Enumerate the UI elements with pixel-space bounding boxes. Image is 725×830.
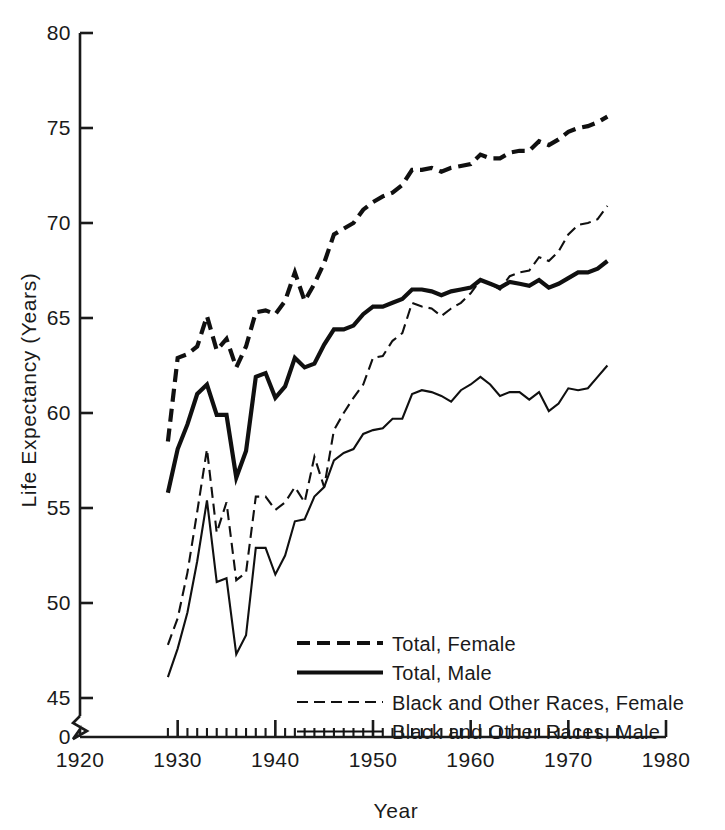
legend-label-3: Black and Other Races, Male — [392, 721, 660, 743]
x-axis-title: Year — [374, 799, 419, 822]
legend-label-0: Total, Female — [392, 633, 516, 655]
y-tick-label-55: 55 — [47, 496, 71, 519]
legend-label-2: Black and Other Races, Female — [392, 692, 684, 714]
x-tick-label-1930: 1930 — [153, 748, 202, 771]
x-tick-label-1980: 1980 — [642, 748, 691, 771]
legend-label-1: Total, Male — [392, 662, 492, 684]
y-tick-label-45: 45 — [47, 686, 71, 709]
y-tick-marks — [80, 33, 93, 698]
series-line-0 — [168, 117, 608, 442]
y-tick-label-zero: 0 — [59, 725, 71, 748]
data-series-group — [168, 117, 608, 678]
x-tick-label-1960: 1960 — [446, 748, 495, 771]
y-tick-label-70: 70 — [47, 211, 71, 234]
y-axis-title: Life Expectancy (Years) — [17, 273, 40, 508]
life-expectancy-chart: 45505560657075800 1920193019401950196019… — [0, 0, 725, 830]
y-tick-label-50: 50 — [47, 591, 71, 614]
series-line-3 — [168, 366, 608, 678]
series-line-2 — [168, 206, 608, 645]
x-tick-label-1920: 1920 — [56, 748, 105, 771]
x-tick-label-1970: 1970 — [544, 748, 593, 771]
y-tick-label-75: 75 — [47, 116, 71, 139]
chart-canvas: 45505560657075800 1920193019401950196019… — [0, 0, 725, 830]
series-line-1 — [168, 261, 608, 493]
chart-legend: Total, FemaleTotal, MaleBlack and Other … — [297, 633, 684, 744]
y-axis: 45505560657075800 — [47, 21, 93, 748]
x-tick-labels: 1920193019401950196019701980 — [56, 748, 691, 771]
y-tick-label-65: 65 — [47, 306, 71, 329]
y-tick-label-60: 60 — [47, 401, 71, 424]
y-tick-labels: 45505560657075800 — [47, 21, 71, 748]
x-tick-label-1950: 1950 — [349, 748, 398, 771]
y-tick-label-80: 80 — [47, 21, 71, 44]
x-tick-label-1940: 1940 — [251, 748, 300, 771]
